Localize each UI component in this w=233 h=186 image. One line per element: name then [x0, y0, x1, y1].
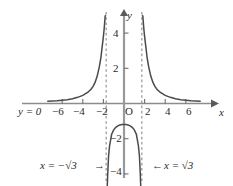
y-tick-label--2: −2: [110, 133, 122, 144]
x-tick-label--4: −4: [73, 106, 85, 117]
y-axis: [120, 9, 128, 178]
left-asymptote-arrow-icon: →: [94, 160, 105, 171]
x-tick-label-2: 2: [145, 106, 151, 117]
horizontal-asymptote-label: y = 0: [18, 106, 41, 117]
y-axis-label: y: [127, 10, 132, 21]
graph-figure: −6 −4 −2 2 4 6 4 2 −2 −4 y x O y = 0 x =…: [0, 0, 233, 186]
y-tick-label--4: −4: [110, 166, 122, 177]
x-tick-label--2: −2: [96, 106, 108, 117]
x-axis-label: x: [219, 107, 224, 118]
curve-right-branch: [143, 16, 201, 102]
y-tick-label-2: 2: [113, 63, 119, 74]
x-tick-label-4: 4: [165, 106, 171, 117]
y-tick-label-4: 4: [113, 28, 119, 39]
right-asymptote-label: x = √3: [164, 160, 193, 171]
left-asymptote-label: x = −√3: [40, 160, 77, 171]
x-tick-label--6: −6: [52, 106, 64, 117]
right-asymptote-arrow-icon: ←: [152, 160, 163, 171]
curve-left-branch: [48, 16, 106, 102]
origin-label: O: [125, 106, 133, 117]
x-tick-label-6: 6: [186, 106, 192, 117]
